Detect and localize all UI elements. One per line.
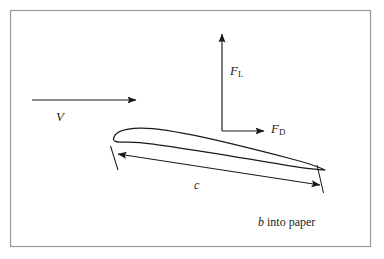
velocity-label: V bbox=[56, 110, 64, 123]
airfoil-shape bbox=[114, 128, 326, 170]
figure-border bbox=[11, 11, 371, 247]
lift-force-label: FL bbox=[230, 64, 244, 79]
drag-force-label: FD bbox=[271, 122, 286, 137]
figure-root: V FL FD c b into paper bbox=[0, 0, 384, 259]
chord-tick-leading-edge bbox=[111, 146, 119, 170]
diagram-canvas bbox=[0, 0, 384, 259]
span-note-text: into paper bbox=[264, 215, 315, 229]
lift-force-subscript: L bbox=[238, 69, 244, 79]
lift-force-symbol: F bbox=[230, 63, 238, 78]
span-into-paper-note: b into paper bbox=[258, 216, 315, 228]
drag-force-subscript: D bbox=[279, 127, 286, 137]
chord-label: c bbox=[194, 179, 199, 191]
drag-force-symbol: F bbox=[271, 121, 279, 136]
